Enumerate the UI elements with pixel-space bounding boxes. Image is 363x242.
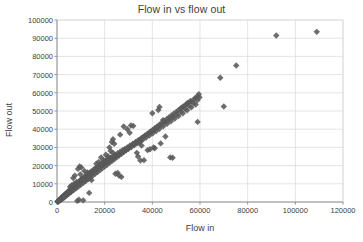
data-points (54, 29, 320, 205)
scatter-chart-figure: Flow in vs flow out Flow out 01000020000… (0, 0, 363, 242)
x-axis-label: Flow in (57, 223, 343, 233)
plot-area (0, 0, 363, 242)
gridlines (57, 20, 343, 202)
